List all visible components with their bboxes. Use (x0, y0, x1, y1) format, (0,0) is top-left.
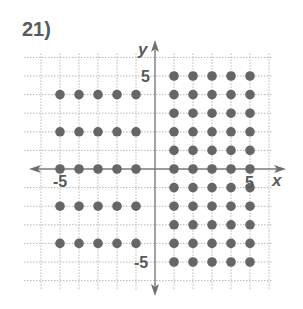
data-point (188, 90, 198, 100)
data-point (55, 90, 65, 100)
data-point (131, 90, 141, 100)
data-point (169, 164, 179, 174)
data-point (207, 257, 217, 267)
data-point (74, 90, 84, 100)
data-point (93, 164, 103, 174)
data-point (207, 108, 217, 118)
data-point (169, 127, 179, 137)
data-point (131, 164, 141, 174)
data-point (188, 220, 198, 230)
data-point (245, 201, 255, 211)
data-point (188, 71, 198, 81)
data-point (207, 220, 217, 230)
data-point (112, 201, 122, 211)
data-point (93, 201, 103, 211)
data-point (207, 90, 217, 100)
data-point (188, 257, 198, 267)
data-point (169, 71, 179, 81)
data-point (112, 164, 122, 174)
data-point (74, 201, 84, 211)
data-point (188, 108, 198, 118)
data-point (245, 220, 255, 230)
data-point (226, 201, 236, 211)
data-point (226, 183, 236, 193)
x-tick-label-5: 5 (245, 174, 254, 191)
data-point (207, 146, 217, 156)
data-point (226, 146, 236, 156)
data-point (207, 164, 217, 174)
data-point (188, 127, 198, 137)
data-point (55, 127, 65, 137)
data-point (226, 71, 236, 81)
data-point (169, 257, 179, 267)
data-point (188, 201, 198, 211)
data-point (245, 90, 255, 100)
data-point (226, 90, 236, 100)
data-point (245, 257, 255, 267)
data-point (93, 239, 103, 249)
data-point (169, 183, 179, 193)
coordinate-plane: x y -5 5 5 -5 (0, 0, 303, 309)
data-point (226, 239, 236, 249)
data-point (226, 127, 236, 137)
data-point (74, 239, 84, 249)
data-point (226, 164, 236, 174)
data-point (226, 108, 236, 118)
data-point (245, 239, 255, 249)
data-point (245, 71, 255, 81)
data-point (207, 201, 217, 211)
data-point (93, 127, 103, 137)
data-point (207, 127, 217, 137)
x-axis-label: x (271, 171, 283, 190)
data-point (226, 257, 236, 267)
data-point (112, 90, 122, 100)
data-point (207, 183, 217, 193)
data-point (131, 127, 141, 137)
x-tick-label-neg5: -5 (53, 173, 67, 190)
y-tick-label-neg5: -5 (134, 254, 148, 271)
data-point (188, 239, 198, 249)
y-axis-label: y (137, 40, 149, 59)
data-point (93, 90, 103, 100)
data-point (131, 239, 141, 249)
data-point (188, 146, 198, 156)
data-point (188, 164, 198, 174)
data-point (226, 220, 236, 230)
data-point (245, 146, 255, 156)
data-point (245, 127, 255, 137)
data-point (55, 239, 65, 249)
data-point (131, 201, 141, 211)
data-point (74, 127, 84, 137)
data-point (169, 220, 179, 230)
data-point (55, 201, 65, 211)
data-point (112, 127, 122, 137)
data-point (74, 164, 84, 174)
data-point (245, 164, 255, 174)
data-point (169, 90, 179, 100)
data-point (188, 183, 198, 193)
data-point (245, 108, 255, 118)
data-point (169, 108, 179, 118)
data-point (207, 239, 217, 249)
data-point (169, 201, 179, 211)
data-point (207, 71, 217, 81)
data-point (169, 146, 179, 156)
data-point (169, 239, 179, 249)
data-point (112, 239, 122, 249)
y-tick-label-5: 5 (141, 68, 150, 85)
